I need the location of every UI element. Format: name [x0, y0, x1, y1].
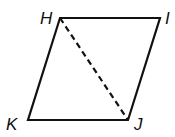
- vertex-label-h: H: [40, 9, 53, 28]
- vertex-label-k: K: [6, 115, 18, 134]
- parallelogram-diagram: H I J K: [0, 0, 175, 137]
- diagonal-hj: [60, 18, 128, 120]
- vertex-label-i: I: [165, 9, 170, 28]
- vertex-label-j: J: [133, 115, 143, 134]
